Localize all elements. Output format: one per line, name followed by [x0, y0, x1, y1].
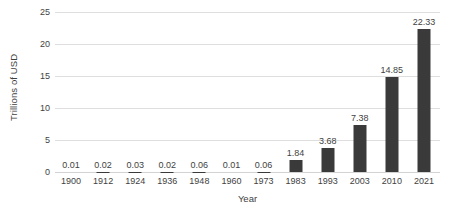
bar-value-label: 0.03	[126, 160, 144, 170]
bar-column[interactable]: 0.02	[87, 12, 119, 172]
bar[interactable]	[321, 148, 334, 172]
bar-chart: Trillions of USD 0510152025 0.010.020.03…	[0, 0, 463, 219]
x-axis-tick-labels: 1900191219241936194819601973198319932003…	[55, 176, 440, 190]
x-axis-tick-label: 1993	[318, 176, 338, 186]
bar-column[interactable]: 7.38	[344, 12, 376, 172]
y-axis-tick-label: 5	[9, 135, 55, 145]
x-axis-tick-label: 1912	[93, 176, 113, 186]
bar[interactable]	[289, 160, 302, 172]
bar-value-label: 0.01	[223, 160, 241, 170]
bar[interactable]	[385, 77, 398, 172]
bar-column[interactable]: 0.01	[55, 12, 87, 172]
bar-column[interactable]: 0.02	[151, 12, 183, 172]
bar-column[interactable]: 0.06	[183, 12, 215, 172]
bar-value-label: 0.06	[191, 160, 209, 170]
bar-value-label: 1.84	[287, 148, 305, 158]
bar-value-label: 0.06	[255, 160, 273, 170]
x-axis-tick-label: 1960	[221, 176, 241, 186]
x-axis-tick-label: 1948	[189, 176, 209, 186]
bar-series: 0.010.020.030.020.060.010.061.843.687.38…	[55, 12, 440, 172]
y-axis-tick-label: 25	[9, 7, 55, 17]
bar-value-label: 0.02	[94, 160, 112, 170]
bar-value-label: 3.68	[319, 136, 337, 146]
bar-value-label: 0.01	[62, 160, 80, 170]
bar-column[interactable]: 1.84	[280, 12, 312, 172]
bar-value-label: 7.38	[351, 113, 369, 123]
x-axis-tick-label: 2010	[382, 176, 402, 186]
y-axis-tick-label: 20	[9, 39, 55, 49]
y-axis-tick-labels: 0510152025	[0, 0, 55, 219]
x-axis-title: Year	[55, 193, 440, 204]
y-axis-tick-label: 15	[9, 71, 55, 81]
x-axis-tick-label: 1900	[61, 176, 81, 186]
bar-value-label: 22.33	[413, 17, 436, 27]
axis-baseline	[55, 172, 440, 173]
bar-column[interactable]: 14.85	[376, 12, 408, 172]
bar-value-label: 14.85	[381, 65, 404, 75]
bar-column[interactable]: 3.68	[312, 12, 344, 172]
x-axis-tick-label: 1924	[125, 176, 145, 186]
bar-column[interactable]: 0.03	[119, 12, 151, 172]
y-axis-tick-label: 10	[9, 103, 55, 113]
bar-column[interactable]: 0.01	[215, 12, 247, 172]
x-axis-tick-label: 2003	[350, 176, 370, 186]
x-axis-tick-label: 2021	[414, 176, 434, 186]
bar[interactable]	[353, 125, 366, 172]
x-axis-tick-label: 1983	[286, 176, 306, 186]
y-axis-tick-label: 0	[9, 167, 55, 177]
x-axis-tick-label: 1936	[157, 176, 177, 186]
bar-value-label: 0.02	[159, 160, 177, 170]
bar-column[interactable]: 22.33	[408, 12, 440, 172]
bar[interactable]	[417, 29, 430, 172]
x-axis-tick-label: 1973	[254, 176, 274, 186]
bar-column[interactable]: 0.06	[248, 12, 280, 172]
